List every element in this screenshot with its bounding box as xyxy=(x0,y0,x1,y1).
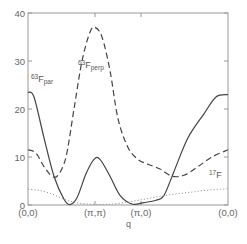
series-label: 63Fperp xyxy=(78,59,104,72)
y-axis-ticks: 010203040 xyxy=(14,8,228,211)
y-tick-label: 30 xyxy=(14,56,25,67)
x-tick-label: (0,0) xyxy=(218,207,238,218)
y-tick-label: 20 xyxy=(14,104,25,115)
series-label: 63Fpar xyxy=(31,73,54,86)
x-axis-title: q xyxy=(126,219,131,229)
chart: 010203040 (0,0)(π,π)(π,0)(0,0) 63Fpar63F… xyxy=(0,0,247,244)
x-axis-ticks: (0,0)(π,π)(π,0)(0,0) xyxy=(18,13,238,218)
x-tick-label: (0,0) xyxy=(18,207,38,218)
series-dashed-line xyxy=(28,27,228,177)
y-tick-label: 10 xyxy=(14,152,25,163)
x-tick-label: (π,0) xyxy=(131,207,152,218)
x-tick-label: (π,π) xyxy=(84,207,106,218)
series-lines xyxy=(28,27,228,205)
y-tick-label: 40 xyxy=(14,8,25,19)
series-label: 17F xyxy=(209,169,222,180)
series-labels: 63Fpar63Fperp17F xyxy=(31,59,222,180)
